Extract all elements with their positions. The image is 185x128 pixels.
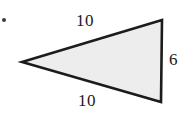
triangle-shape [22,20,162,102]
side-length-label-right: 6 [169,51,178,68]
geometry-figure: 10 10 6 [0,0,185,128]
side-length-label-bottom: 10 [78,92,96,109]
side-length-label-top: 10 [76,12,94,29]
